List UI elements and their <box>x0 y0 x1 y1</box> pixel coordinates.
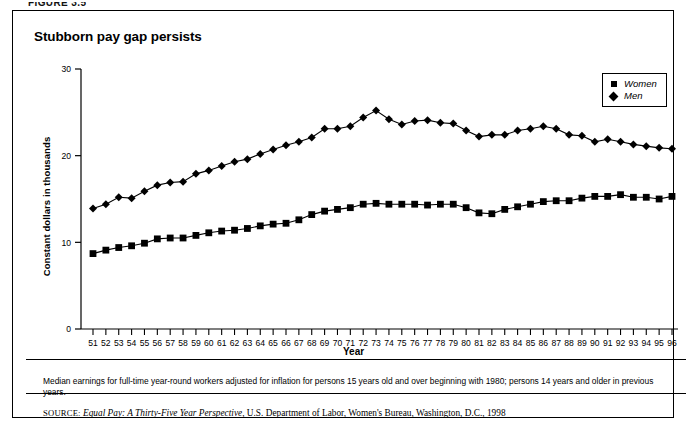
data-point-women <box>617 191 624 198</box>
x-tick-label: 59 <box>191 338 201 348</box>
x-tick-label: 53 <box>114 338 124 348</box>
data-point-women <box>295 216 302 223</box>
source-rest: , U.S. Department of Labor, Women's Bure… <box>242 408 505 418</box>
data-point-men <box>153 181 161 189</box>
data-point-women <box>566 197 573 204</box>
x-tick-label: 66 <box>281 338 291 348</box>
x-tick-label: 89 <box>577 338 587 348</box>
y-tick-label: 20 <box>61 151 71 161</box>
data-point-women <box>360 201 367 208</box>
x-tick-label: 72 <box>358 338 368 348</box>
data-point-women <box>630 194 637 201</box>
data-point-women <box>463 204 470 211</box>
data-point-men <box>398 120 406 128</box>
data-point-men <box>578 132 586 140</box>
data-point-men <box>282 141 290 149</box>
data-point-women <box>205 229 212 236</box>
x-tick-label: 87 <box>551 338 561 348</box>
x-tick-label: 69 <box>320 338 330 348</box>
y-axis-label: Constant dollars in thousands <box>41 122 52 292</box>
data-point-women <box>604 193 611 200</box>
data-point-men <box>89 205 97 213</box>
x-tick-label: 68 <box>307 338 317 348</box>
chart-source: SOURCE: Equal Pay: A Thirty-Five Year Pe… <box>43 407 673 419</box>
data-point-women <box>476 209 483 216</box>
data-point-men <box>565 131 573 139</box>
x-tick-label: 92 <box>616 338 626 348</box>
x-tick-label: 55 <box>140 338 150 348</box>
data-point-women <box>591 193 598 200</box>
x-tick-label: 57 <box>165 338 175 348</box>
data-point-women <box>514 203 521 210</box>
data-point-women <box>527 201 534 208</box>
x-tick-label: 56 <box>153 338 163 348</box>
data-point-men <box>668 145 676 153</box>
data-point-men <box>552 125 560 133</box>
data-point-men <box>436 119 444 127</box>
data-point-women <box>231 227 238 234</box>
data-point-men <box>243 155 251 163</box>
square-marker-icon <box>609 81 618 87</box>
x-tick-label: 62 <box>230 338 240 348</box>
data-point-women <box>643 194 650 201</box>
data-point-women <box>180 235 187 242</box>
x-tick-label: 67 <box>294 338 304 348</box>
data-point-women <box>154 235 161 242</box>
y-tick-label: 30 <box>61 64 71 74</box>
data-point-men <box>166 179 174 187</box>
chart-footnote: Median earnings for full-time year-round… <box>43 376 673 398</box>
y-tick-label: 10 <box>61 238 71 248</box>
data-point-men <box>128 194 136 202</box>
data-point-women <box>398 201 405 208</box>
data-point-men <box>192 170 200 178</box>
x-tick-label: 58 <box>178 338 188 348</box>
data-point-men <box>205 166 213 174</box>
source-prefix: SOURCE: <box>43 408 81 418</box>
data-point-men <box>179 178 187 186</box>
data-point-men <box>604 135 612 143</box>
x-axis-label: Year <box>343 346 364 357</box>
x-tick-label: 90 <box>590 338 600 348</box>
data-point-men <box>591 138 599 146</box>
figure-kicker: FIGURE 3.5 <box>28 0 86 10</box>
data-point-men <box>424 116 432 124</box>
diamond-marker-icon <box>609 93 618 100</box>
line-chart-svg: 0102030515253545556575859606162636465666… <box>13 11 688 433</box>
data-point-women <box>656 196 663 203</box>
data-point-women <box>450 201 457 208</box>
data-point-men <box>308 133 316 141</box>
x-tick-label: 60 <box>204 338 214 348</box>
data-point-men <box>655 144 663 152</box>
data-point-men <box>218 162 226 170</box>
x-tick-label: 91 <box>603 338 613 348</box>
chart-title: Stubborn pay gap persists <box>34 29 202 44</box>
x-tick-label: 93 <box>629 338 639 348</box>
legend-item-women: Women <box>609 78 657 90</box>
x-tick-label: 84 <box>513 338 523 348</box>
data-point-women <box>308 211 315 218</box>
x-tick-label: 85 <box>526 338 536 348</box>
x-tick-label: 70 <box>333 338 343 348</box>
x-tick-label: 61 <box>217 338 227 348</box>
x-tick-label: 79 <box>448 338 458 348</box>
x-tick-label: 83 <box>500 338 510 348</box>
source-title: Equal Pay: A Thirty-Five Year Perspectiv… <box>83 408 242 418</box>
data-point-women <box>347 204 354 211</box>
x-tick-label: 94 <box>641 338 651 348</box>
x-tick-label: 63 <box>243 338 253 348</box>
legend-item-men: Men <box>609 90 657 102</box>
data-point-men <box>501 131 509 139</box>
y-tick-label: 0 <box>66 324 71 334</box>
data-point-women <box>102 247 109 254</box>
data-point-women <box>141 240 148 247</box>
plot-area: 0102030515253545556575859606162636465666… <box>13 11 688 433</box>
data-point-women <box>244 225 251 232</box>
x-tick-label: 74 <box>384 338 394 348</box>
data-point-men <box>539 122 547 130</box>
x-tick-label: 65 <box>268 338 278 348</box>
x-tick-label: 88 <box>564 338 574 348</box>
data-point-men <box>372 107 380 115</box>
data-point-men <box>385 115 393 123</box>
series-line-men <box>93 111 672 209</box>
data-point-men <box>526 125 534 133</box>
